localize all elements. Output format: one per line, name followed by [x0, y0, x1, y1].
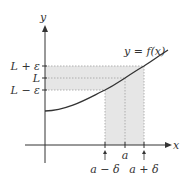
x-tick-label-upper: a + δ — [129, 163, 159, 176]
arrow-up-icon — [142, 150, 146, 154]
diagram-canvas: y x y = f(x) L + ε L L − ε a − δ a a + δ — [0, 0, 184, 185]
x-tick-label-lower: a − δ — [90, 163, 120, 176]
arrow-up-icon — [103, 150, 107, 154]
x-axis-label: x — [173, 139, 180, 152]
y-axis-arrow-icon — [42, 25, 48, 32]
y-tick-label-lower: L − ε — [10, 84, 41, 97]
x-axis-arrow-icon — [165, 142, 172, 148]
y-axis-label: y — [39, 11, 47, 24]
curve-label: y = f(x) — [123, 45, 165, 58]
epsilon-delta-diagram: y x y = f(x) L + ε L L − ε a − δ a a + δ — [0, 0, 184, 185]
x-tick-label-a: a — [122, 149, 129, 162]
